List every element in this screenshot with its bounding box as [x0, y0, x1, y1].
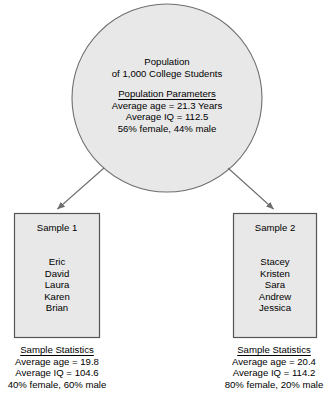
- population-text-spacer: [72, 79, 262, 88]
- list-item: Stacey: [233, 256, 317, 268]
- sample-2-title: Sample 2: [233, 222, 317, 234]
- sample-1-stat-gender: 40% female, 60% male: [0, 379, 114, 391]
- population-line-2: of 1,000 College Students: [72, 68, 262, 80]
- population-parameter-gender: 56% female, 44% male: [72, 123, 262, 135]
- sample-2-statistics: Sample Statistics Average age = 20.4 Ave…: [217, 344, 331, 390]
- population-parameter-age: Average age = 21.3 Years: [72, 100, 262, 112]
- list-item: Brian: [14, 302, 100, 314]
- sampling-diagram: Population of 1,000 College Students Pop…: [0, 0, 331, 394]
- sample-1-statistics: Sample Statistics Average age = 19.8 Ave…: [0, 344, 114, 390]
- list-item: Karen: [14, 291, 100, 303]
- sample-2-name-list: Stacey Kristen Sara Andrew Jessica: [233, 256, 317, 314]
- arrow-to-sample-2: [228, 168, 274, 209]
- sample-2-statistics-heading: Sample Statistics: [217, 344, 331, 356]
- sample-1-title: Sample 1: [14, 222, 100, 234]
- population-parameters-heading: Population Parameters: [72, 88, 262, 100]
- sample-2-stat-age: Average age = 20.4: [217, 356, 331, 368]
- sample-1-stat-iq: Average IQ = 104.6: [0, 367, 114, 379]
- sample-2-stat-gender: 80% female, 20% male: [217, 379, 331, 391]
- list-item: Jessica: [233, 302, 317, 314]
- arrow-to-sample-1: [58, 168, 105, 209]
- population-parameter-iq: Average IQ = 112.5: [72, 111, 262, 123]
- sample-2-stat-iq: Average IQ = 114.2: [217, 367, 331, 379]
- list-item: Kristen: [233, 268, 317, 280]
- population-line-1: Population: [72, 56, 262, 68]
- list-item: Eric: [14, 256, 100, 268]
- population-text-block: Population of 1,000 College Students Pop…: [72, 56, 262, 135]
- list-item: Andrew: [233, 291, 317, 303]
- sample-1-stat-age: Average age = 19.8: [0, 356, 114, 368]
- sample-1-name-list: Eric David Laura Karen Brian: [14, 256, 100, 314]
- list-item: Sara: [233, 279, 317, 291]
- list-item: David: [14, 268, 100, 280]
- sample-1-statistics-heading: Sample Statistics: [0, 344, 114, 356]
- list-item: Laura: [14, 279, 100, 291]
